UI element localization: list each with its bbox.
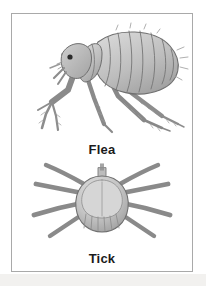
specimen-flea: Flea xyxy=(12,20,192,156)
tick-illustration xyxy=(12,162,192,248)
flea-illustration xyxy=(12,20,192,142)
specimen-label-tick: Tick xyxy=(12,252,192,265)
specimen-label-flea: Flea xyxy=(12,143,192,156)
page-background-tint xyxy=(0,274,206,286)
specimen-tick: Tick xyxy=(12,162,192,265)
figure-panel: Flea xyxy=(11,13,193,272)
